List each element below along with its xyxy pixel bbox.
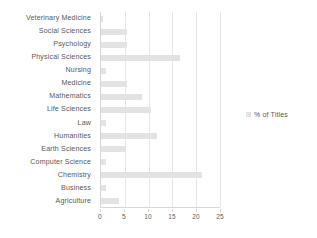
bar[interactable] bbox=[101, 68, 106, 74]
bar-row bbox=[101, 129, 220, 142]
gridline bbox=[220, 12, 221, 207]
category-label: Nursing bbox=[0, 66, 95, 75]
bar[interactable] bbox=[101, 159, 106, 165]
axis-tick-mark bbox=[220, 209, 221, 212]
axis-tick-mark bbox=[148, 209, 149, 212]
legend-swatch-icon bbox=[246, 112, 251, 117]
axis-tick-label: 10 bbox=[144, 213, 152, 220]
category-label: Veterinary Medicine bbox=[0, 14, 95, 23]
bar-row bbox=[101, 12, 220, 25]
bar[interactable] bbox=[101, 107, 151, 113]
category-label: Psychology bbox=[0, 40, 95, 49]
bar-chart: Veterinary MedicineSocial SciencesPsycho… bbox=[0, 0, 317, 238]
axis-tick-label: 15 bbox=[168, 213, 176, 220]
bar-series bbox=[101, 12, 220, 207]
category-label: Earth Sciences bbox=[0, 145, 95, 154]
category-label: Chemistry bbox=[0, 171, 95, 180]
chart-legend: % of Titles bbox=[246, 111, 288, 118]
bar-row bbox=[101, 25, 220, 38]
bar-row bbox=[101, 194, 220, 207]
bar-row bbox=[101, 77, 220, 90]
category-label: Medicine bbox=[0, 79, 95, 88]
category-axis-labels: Veterinary MedicineSocial SciencesPsycho… bbox=[0, 12, 95, 208]
category-label: Physical Sciences bbox=[0, 53, 95, 62]
bar-row bbox=[101, 103, 220, 116]
axis-tick-label: 0 bbox=[98, 213, 102, 220]
value-axis: 0510152025 bbox=[100, 209, 220, 225]
bar[interactable] bbox=[101, 55, 180, 61]
bar-row bbox=[101, 116, 220, 129]
legend-item-label: % of Titles bbox=[254, 111, 288, 118]
plot-area bbox=[100, 12, 220, 208]
bar-row bbox=[101, 168, 220, 181]
category-label: Business bbox=[0, 184, 95, 193]
bar-row bbox=[101, 51, 220, 64]
bar-row bbox=[101, 142, 220, 155]
bar[interactable] bbox=[101, 198, 119, 204]
category-label: Law bbox=[0, 119, 95, 128]
bar[interactable] bbox=[101, 146, 125, 152]
bar-row bbox=[101, 64, 220, 77]
bar[interactable] bbox=[101, 81, 127, 87]
bar[interactable] bbox=[101, 185, 106, 191]
axis-tick-label: 20 bbox=[192, 213, 200, 220]
axis-tick-label: 25 bbox=[216, 213, 224, 220]
axis-tick-label: 5 bbox=[122, 213, 126, 220]
axis-tick-mark bbox=[124, 209, 125, 212]
axis-tick-mark bbox=[196, 209, 197, 212]
axis-tick-mark bbox=[172, 209, 173, 212]
bar[interactable] bbox=[101, 133, 157, 139]
bar-row bbox=[101, 38, 220, 51]
bar[interactable] bbox=[101, 29, 127, 35]
plot-wrapper: Veterinary MedicineSocial SciencesPsycho… bbox=[0, 0, 240, 238]
category-label: Agriculture bbox=[0, 197, 95, 206]
bar-row bbox=[101, 181, 220, 194]
category-label: Social Sciences bbox=[0, 27, 95, 36]
bar[interactable] bbox=[101, 94, 142, 100]
bar[interactable] bbox=[101, 42, 127, 48]
bar-row bbox=[101, 155, 220, 168]
category-label: Life Sciences bbox=[0, 105, 95, 114]
axis-tick-mark bbox=[100, 209, 101, 212]
bar-row bbox=[101, 90, 220, 103]
category-label: Computer Science bbox=[0, 158, 95, 167]
bar[interactable] bbox=[101, 172, 202, 178]
category-label: Humanities bbox=[0, 132, 95, 141]
category-label: Mathematics bbox=[0, 92, 95, 101]
bar[interactable] bbox=[101, 120, 106, 126]
bar[interactable] bbox=[101, 16, 103, 22]
